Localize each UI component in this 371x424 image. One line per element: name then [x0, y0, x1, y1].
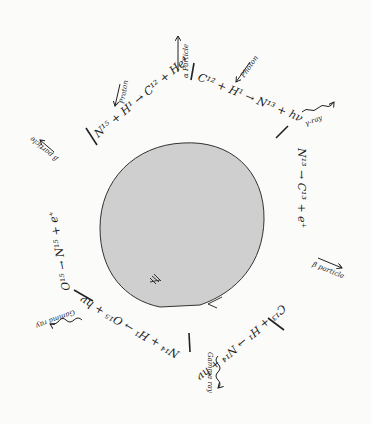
- gamma-ray-label: Gamma ray: [206, 352, 214, 394]
- reaction-6: O¹⁵ → N¹⁵ + e⁺ β particle: [28, 135, 73, 292]
- reaction-4: C¹³ + H¹ → N¹⁴ + hν Gamma ray: [194, 302, 288, 394]
- gamma-ray-icon: [302, 102, 334, 112]
- alpha-label: α Particle: [182, 44, 190, 78]
- reaction-3: N¹³ → C¹³ + e⁺ β particle: [295, 147, 345, 280]
- reaction-3-equation: N¹³ → C¹³ + e⁺: [295, 147, 308, 229]
- cno-cycle-diagram: N¹⁵ + H¹ → C¹² + He⁴ Proton α Particle C…: [0, 0, 371, 424]
- gamma-ray-label: γ-ray: [304, 113, 325, 128]
- photon-label: Photon: [239, 54, 261, 80]
- star-core: [100, 143, 264, 308]
- beta-label: β particle: [310, 260, 345, 280]
- reaction-1-equation: N¹⁵ + H¹ → C¹² + He⁴: [91, 54, 191, 141]
- reaction-1: N¹⁵ + H¹ → C¹² + He⁴ Proton α Particle: [91, 36, 191, 141]
- gamma-ray-label: Gamma ray: [34, 308, 76, 330]
- reaction-6-equation: O¹⁵ → N¹⁵ + e⁺: [46, 210, 73, 292]
- reaction-2: C¹² + H¹ → N¹³ + hν Photon γ-ray: [196, 54, 334, 128]
- beta-label: β particle: [28, 135, 60, 163]
- reaction-2-equation: C¹² + H¹ → N¹³ + hν: [196, 71, 305, 125]
